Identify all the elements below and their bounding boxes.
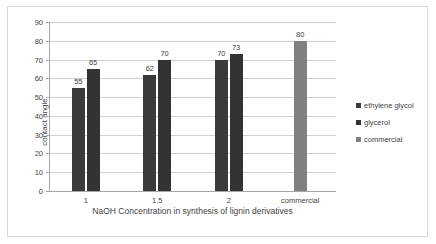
plot-area: 0102030405060708090 55656270707380 11.52… xyxy=(49,22,336,191)
x-axis-tick-label: commercial xyxy=(281,196,319,205)
y-axis-tick-label: 10 xyxy=(35,168,43,177)
bar-rect xyxy=(87,69,100,191)
bar-glycerol: 73 xyxy=(230,54,243,191)
bar-rect xyxy=(158,60,171,191)
bar-rect xyxy=(215,60,228,191)
legend-item[interactable]: ethylene glycol xyxy=(356,101,432,110)
y-axis-tick-label: 60 xyxy=(35,74,43,83)
bar-value-label: 65 xyxy=(89,58,97,67)
bar-value-label: 70 xyxy=(160,49,168,58)
gridline xyxy=(50,191,336,192)
y-axis-tick-label: 80 xyxy=(35,36,43,45)
y-axis-tick xyxy=(46,116,50,117)
gridline xyxy=(50,22,336,23)
y-axis-tick-label: 40 xyxy=(35,111,43,120)
legend-item-label: ethylene glycol xyxy=(364,101,414,110)
x-axis-title: NaOH Concentration in synthesis of ligni… xyxy=(49,206,336,216)
bar-rect xyxy=(72,88,85,191)
legend-swatch-icon xyxy=(356,137,361,142)
y-axis-tick xyxy=(46,78,50,79)
bar-value-label: 62 xyxy=(146,64,154,73)
x-axis-tick-label: 1.5 xyxy=(152,196,162,205)
legend-swatch-icon xyxy=(356,103,361,108)
bar-value-label: 80 xyxy=(296,30,304,39)
legend-swatch-icon xyxy=(356,120,361,125)
y-axis-tick-label: 50 xyxy=(35,93,43,102)
y-axis-tick xyxy=(46,191,50,192)
chart-container: contact angle 0102030405060708090 556562… xyxy=(7,6,428,237)
legend-item-label: glycerol xyxy=(364,118,390,127)
legend-item[interactable]: glycerol xyxy=(356,118,432,127)
x-axis-tick-label: 2 xyxy=(227,196,231,205)
plot-wrapper: 0102030405060708090 55656270707380 11.52… xyxy=(49,22,336,191)
y-axis-tick xyxy=(46,97,50,98)
bar-value-label: 73 xyxy=(232,43,240,52)
y-axis-tick-label: 0 xyxy=(39,187,43,196)
y-axis-tick xyxy=(46,41,50,42)
y-axis-tick xyxy=(46,153,50,154)
y-axis-tick-label: 90 xyxy=(35,18,43,27)
y-axis-tick-label: 70 xyxy=(35,55,43,64)
y-axis-tick xyxy=(46,22,50,23)
y-axis-tick-label: 20 xyxy=(35,149,43,158)
chart-legend: ethylene glycolglycerolcommercial xyxy=(356,101,432,152)
bar-rect xyxy=(294,41,307,191)
y-axis-tick xyxy=(46,60,50,61)
x-axis-tick-label: 1 xyxy=(84,196,88,205)
bar-value-label: 55 xyxy=(74,77,82,86)
bar-ethylene-glycol: 62 xyxy=(143,75,156,191)
bar-glycerol: 65 xyxy=(87,69,100,191)
bar-ethylene-glycol: 70 xyxy=(215,60,228,191)
bar-rect xyxy=(143,75,156,191)
y-axis-tick-label: 30 xyxy=(35,130,43,139)
bar-glycerol: 70 xyxy=(158,60,171,191)
y-axis-tick xyxy=(46,135,50,136)
legend-item[interactable]: commercial xyxy=(356,135,432,144)
y-axis-tick xyxy=(46,172,50,173)
bar-rect xyxy=(230,54,243,191)
bar-value-label: 70 xyxy=(217,49,225,58)
bar-commercial: 80 xyxy=(294,41,307,191)
bar-ethylene-glycol: 55 xyxy=(72,88,85,191)
legend-item-label: commercial xyxy=(364,135,402,144)
